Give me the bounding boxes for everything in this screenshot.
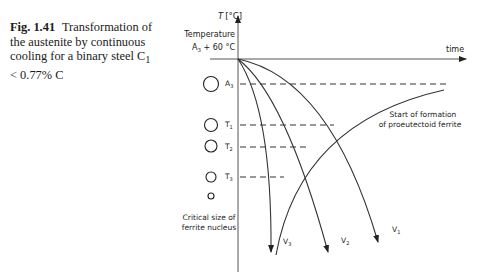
nucleus-circle-t2 (205, 140, 217, 152)
label-v1: V1 (392, 225, 400, 235)
label-t1: T1 (224, 120, 233, 130)
level-labels: A3 T1 T2 T3 (224, 79, 233, 182)
nucleus-label-2: ferrite nucleus (182, 223, 236, 232)
ferrite-start-label-1: Start of formation (390, 110, 457, 119)
cct-diagram: T[°C] time Temperature A3 + 60 °C A3 T1 … (0, 0, 490, 274)
cooling-curve-v1 (238, 59, 378, 242)
start-temperature-value: A3 + 60 °C (192, 43, 235, 53)
nucleus-circles (204, 77, 219, 200)
start-temperature-label: Temperature (183, 30, 235, 39)
curve-labels: V3 V2 V1 (283, 225, 400, 247)
label-t3: T3 (224, 172, 233, 182)
nucleus-circle-critical (208, 193, 214, 199)
y-axis-label: T[°C] (218, 11, 242, 21)
x-axis-label: time (446, 45, 464, 54)
cooling-curve-v3 (238, 59, 271, 252)
label-v3: V3 (283, 237, 291, 247)
ferrite-start-label-2: of proeutectoid ferrite (379, 120, 462, 129)
nucleus-circle-t1 (205, 119, 218, 132)
nucleus-circle-t3 (206, 172, 216, 182)
cooling-curves (238, 59, 378, 252)
nucleus-circle-a3 (204, 77, 219, 92)
label-t2: T2 (224, 142, 233, 152)
label-v2: V2 (341, 236, 349, 246)
label-a3: A3 (225, 79, 233, 89)
nucleus-label-1: Critical size of (183, 213, 236, 222)
